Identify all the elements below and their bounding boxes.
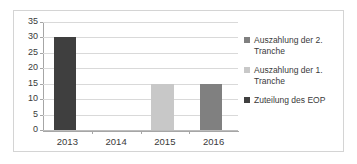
y-axis-tick-mark [40, 68, 43, 69]
y-axis-tick-label: 30 [16, 32, 38, 41]
y-axis-tick-label: 0 [16, 125, 38, 134]
y-axis-tick-label: 20 [16, 63, 38, 72]
y-axis-tick-mark [40, 37, 43, 38]
legend-entry[interactable]: Auszahlung der 2.Tranche [244, 35, 344, 57]
x-axis-tick-label: 2015 [141, 136, 190, 147]
y-axis-tick-mark [40, 115, 43, 116]
y-axis-tick-mark [40, 22, 43, 23]
y-axis-tick-mark [40, 99, 43, 100]
y-axis-tick-label: 15 [16, 79, 38, 88]
legend-label: Zuteilung des EOP [254, 95, 344, 106]
chart-container: 35302520151050 Auszahlung der 2.TrancheA… [13, 10, 344, 152]
x-axis-tick-mark [141, 131, 142, 134]
legend-label-continuation: Tranche [254, 76, 344, 87]
x-axis-tick-mark [189, 131, 190, 134]
y-axis-tick-label: 10 [16, 94, 38, 103]
y-axis-tick-labels: 35302520151050 [14, 11, 38, 153]
legend-entry[interactable]: Zuteilung des EOP [244, 95, 344, 106]
y-axis-tick-mark [40, 130, 43, 131]
x-axis-tick-mark [92, 131, 93, 134]
legend-label-continuation: Tranche [254, 46, 344, 57]
legend-swatch-icon [244, 37, 250, 43]
y-axis-tick-label: 25 [16, 48, 38, 57]
y-axis-tick-mark [40, 53, 43, 54]
legend-label: Auszahlung der 1. [254, 65, 344, 76]
plot-area [43, 22, 238, 130]
legend-swatch-icon [244, 97, 250, 103]
legend-entry[interactable]: Auszahlung der 1.Tranche [244, 65, 344, 87]
y-axis-tick-label: 35 [16, 17, 38, 26]
bar [200, 84, 222, 130]
bar [54, 37, 76, 130]
x-axis-tick-label: 2013 [43, 136, 92, 147]
legend-swatch-icon [244, 67, 250, 73]
y-axis-tick-mark [40, 84, 43, 85]
y-axis-tick-label: 5 [16, 110, 38, 119]
bar [151, 84, 173, 130]
x-axis-tick-label: 2016 [189, 136, 238, 147]
gridline [43, 22, 238, 23]
chart-legend: Auszahlung der 2.TrancheAuszahlung der 1… [244, 35, 344, 114]
legend-label: Auszahlung der 2. [254, 35, 344, 46]
x-axis-tick-label: 2014 [92, 136, 141, 147]
